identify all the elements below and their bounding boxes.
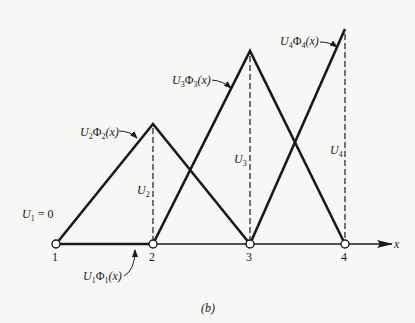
node-1-label: 1 — [52, 250, 58, 264]
u1-value-label: U1 = 0 — [22, 207, 53, 223]
phi4-leader-arrow — [320, 42, 337, 47]
figure-caption: (b) — [201, 301, 215, 315]
phi1-leader-arrow — [124, 250, 135, 276]
phi3-function-label: U3Φ3(x) — [172, 73, 211, 89]
node-3-label: 3 — [246, 250, 252, 264]
phi4-line — [250, 29, 345, 244]
phi2-function-label: U2Φ2(x) — [80, 125, 119, 141]
node-1-marker — [52, 240, 60, 248]
x-axis-label: x — [393, 237, 400, 251]
piecewise-linear-basis-diagram: x 1 2 3 4 U1 = 0 U2 U3 U4 U2Φ2(x) U3Φ3(x… — [0, 0, 415, 323]
node-4-label: 4 — [341, 250, 347, 264]
node-2-marker — [149, 240, 157, 248]
node-2-label: 2 — [149, 250, 155, 264]
phi1-function-label: U1Φ1(x) — [83, 269, 122, 285]
phi2-leader-arrow — [119, 131, 137, 138]
node-4-marker — [341, 240, 349, 248]
phi4-function-label: U4Φ4(x) — [280, 34, 319, 50]
u3-height-label: U3 — [234, 152, 247, 168]
u2-height-label: U2 — [137, 183, 150, 199]
u4-height-label: U4 — [330, 143, 343, 159]
node-3-marker — [246, 240, 254, 248]
phi3-leader-arrow — [212, 80, 231, 88]
